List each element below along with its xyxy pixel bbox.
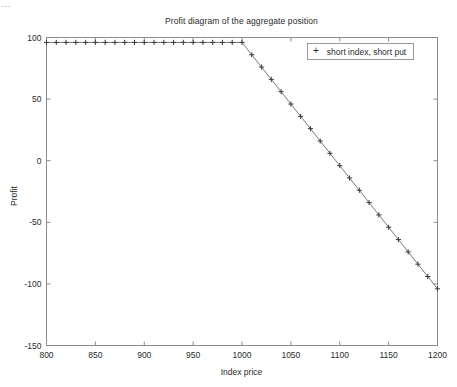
x-tick-label: 1050 (281, 350, 300, 360)
figure-canvas: ... Profit diagram of the aggregate posi… (0, 0, 457, 387)
x-tick-label: 800 (39, 350, 53, 360)
x-tick-label: 1150 (379, 350, 397, 360)
x-tick-label: 1200 (428, 350, 447, 360)
chart-legend: + short index, short put (307, 43, 414, 60)
x-tick-label: 900 (137, 350, 151, 360)
y-tick-label: -100 (6, 279, 42, 289)
x-tick-label: 1100 (331, 350, 349, 360)
y-tick-label: 50 (6, 94, 42, 104)
x-tick-label: 850 (88, 350, 102, 360)
y-tick-label: 0 (6, 156, 42, 166)
y-tick-label: -150 (6, 341, 42, 351)
data-series-short-index-short-put (44, 40, 440, 292)
x-axis-ticks (47, 38, 438, 346)
axes-frame (47, 38, 438, 346)
y-tick-label: 100 (6, 33, 42, 43)
x-tick-label: 950 (186, 350, 200, 360)
y-axis-label: Profit (9, 166, 19, 226)
x-axis-label: Index price (46, 367, 437, 377)
legend-entry-label: short index, short put (327, 47, 406, 57)
legend-plus-icon: + (313, 46, 319, 57)
y-axis-ticks (47, 38, 438, 346)
x-tick-label: 1000 (233, 350, 252, 360)
